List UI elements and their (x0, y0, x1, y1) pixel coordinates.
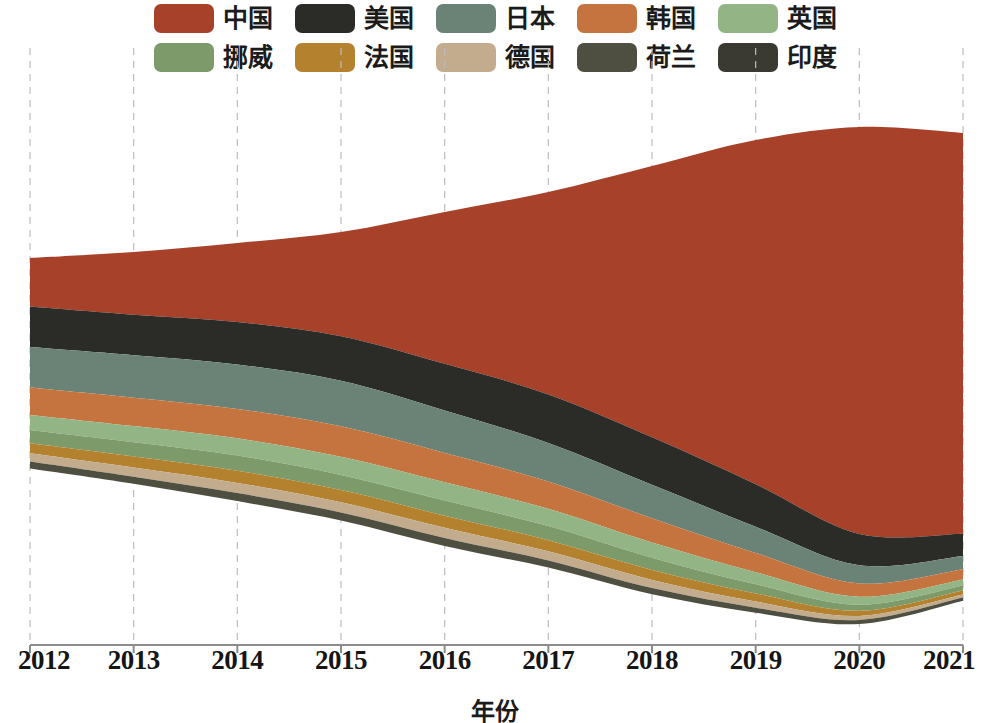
x-tick-labels: 2012201320142015201620172018201920202021 (0, 645, 990, 679)
x-tick-label-2020: 2020 (833, 645, 885, 676)
x-tick-label-2012: 2012 (18, 645, 70, 676)
x-tick-label-2013: 2013 (108, 645, 160, 676)
x-tick-label-2018: 2018 (626, 645, 678, 676)
x-tick-label-2017: 2017 (522, 645, 574, 676)
x-tick-label-2014: 2014 (211, 645, 263, 676)
stream-bands (30, 127, 963, 624)
x-tick-label-2021: 2021 (923, 645, 975, 676)
x-tick-label-2015: 2015 (315, 645, 367, 676)
x-tick-label-2016: 2016 (419, 645, 471, 676)
plot-area (0, 0, 990, 723)
x-tick-label-2019: 2019 (730, 645, 782, 676)
streamgraph-svg (0, 0, 990, 723)
x-axis-title: 年份 (0, 692, 990, 723)
streamgraph-chart: 中国美国日本韩国英国 挪威法国德国荷兰印度 201220132014201520… (0, 0, 990, 723)
